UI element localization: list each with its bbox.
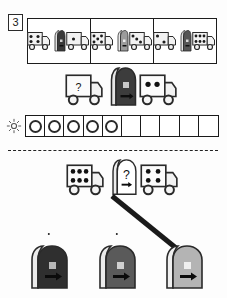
count-cell-filled[interactable] [45, 116, 64, 136]
middle-row-question-truck: ? [65, 72, 106, 108]
panel-1-cargo [52, 29, 66, 53]
count-cell-empty[interactable] [199, 116, 218, 136]
panel-2-left-truck [90, 30, 115, 52]
question-left-truck [66, 162, 107, 198]
example-panel-strip [27, 18, 217, 64]
option-b-marker [115, 233, 117, 235]
panel-1-right-truck [66, 30, 91, 52]
panel-3-right-truck [192, 30, 217, 52]
middle-demo-row: ? [58, 66, 186, 108]
middle-row-cargo [106, 66, 139, 108]
count-ring [86, 120, 99, 133]
count-cell-empty[interactable] [160, 116, 179, 136]
counting-strip-row [6, 114, 221, 138]
middle-row-question-mark: ? [75, 81, 81, 93]
question-cargo-unknown[interactable]: ? [107, 158, 140, 198]
answer-option-b[interactable] [92, 243, 142, 295]
answer-options-row [24, 243, 209, 295]
count-cell-filled[interactable] [64, 116, 83, 136]
count-ring [29, 120, 42, 133]
worksheet-page: 3 [0, 0, 227, 298]
sun-icon [6, 118, 22, 134]
panel-1-left-truck [27, 30, 52, 52]
count-ring [105, 120, 118, 133]
count-cell-empty[interactable] [122, 116, 141, 136]
option-a-marker [48, 233, 50, 235]
example-panel-2 [91, 19, 154, 63]
middle-row-right-truck [139, 72, 180, 108]
example-panel-3 [154, 19, 216, 63]
count-cell-filled[interactable] [103, 116, 122, 136]
count-cell-empty[interactable] [141, 116, 160, 136]
panel-2-right-truck [129, 30, 154, 52]
panel-2-cargo [115, 29, 129, 53]
question-row: ? [58, 158, 188, 198]
answer-option-c[interactable] [159, 243, 209, 295]
exercise-number-badge: 3 [8, 14, 23, 31]
count-cell-empty[interactable] [180, 116, 199, 136]
count-ring [48, 120, 61, 133]
question-right-truck [140, 162, 181, 198]
section-divider [8, 150, 218, 151]
panel-3-cargo [178, 29, 192, 53]
example-panel-1 [28, 19, 91, 63]
count-ring [67, 120, 80, 133]
answer-option-a[interactable] [24, 243, 74, 295]
counting-cells[interactable] [25, 115, 219, 137]
count-cell-filled[interactable] [26, 116, 45, 136]
panel-3-left-truck [153, 30, 178, 52]
question-mark-label: ? [122, 168, 129, 182]
count-cell-filled[interactable] [84, 116, 103, 136]
